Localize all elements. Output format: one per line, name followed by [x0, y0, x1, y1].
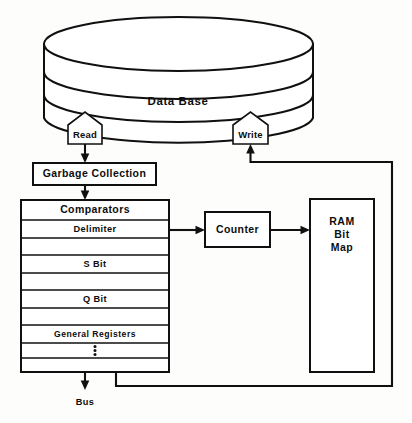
- database-label: Data Base: [147, 95, 208, 107]
- register-row-q-bit: Q Bit: [83, 294, 107, 304]
- register-stack-header: Comparators: [60, 203, 130, 215]
- bus-label: Bus: [76, 397, 95, 407]
- diagram-canvas: Data Base Read Write Garbage Collection: [0, 0, 412, 423]
- arrow-comparators-to-bus: [81, 372, 90, 390]
- register-row-s-bit: S Bit: [84, 259, 107, 269]
- read-port-label: Read: [73, 129, 97, 140]
- vertical-ellipsis-icon: [94, 345, 97, 356]
- diagram-svg: Data Base Read Write Garbage Collection: [0, 0, 412, 423]
- ram-label-line3: Map: [331, 241, 354, 253]
- ram-label-line1: RAM: [329, 215, 354, 227]
- arrow-counter-to-ram: [270, 226, 310, 235]
- garbage-collection-label: Garbage Collection: [43, 167, 146, 179]
- counter-label: Counter: [216, 223, 259, 235]
- write-port-label: Write: [238, 129, 263, 140]
- register-row-delimiter: Delimiter: [74, 224, 117, 234]
- ram-label-line2: Bit: [334, 228, 350, 240]
- arrow-comparators-to-counter: [169, 226, 205, 235]
- register-row-general-registers: General Registers: [54, 329, 136, 339]
- arrow-read-to-garbage-collection: [81, 144, 90, 163]
- arrow-garbage-collection-to-comparators: [81, 185, 90, 200]
